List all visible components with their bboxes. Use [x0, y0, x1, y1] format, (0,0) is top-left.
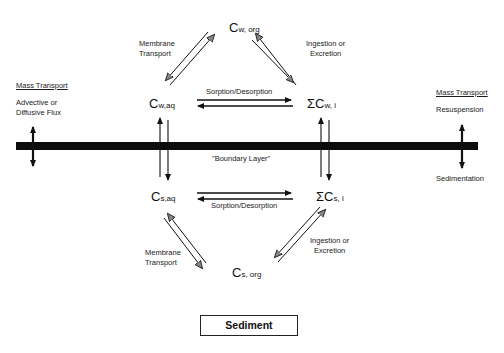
diagram-canvas: Cw, org Cw,aq ΣCw, i Cs,aq ΣCs, i Cs, or… [0, 0, 504, 353]
node-sum-cs-i: ΣCs, i [316, 190, 344, 206]
node-subscript: s,aq [160, 194, 175, 203]
node-symbol: C [232, 265, 241, 280]
label-line: Excretion [310, 246, 349, 256]
boundary-layer-bar [16, 142, 478, 150]
node-prefix: Σ [316, 189, 324, 204]
label-line: Membrane [145, 248, 181, 258]
label-line: Ingestion or [310, 236, 349, 246]
label-line: Membrane [139, 39, 175, 49]
label-line: Ingestion or [306, 39, 345, 49]
resuspension-label: Resuspension [436, 105, 484, 115]
sedimentation-label: Sedimentation [436, 174, 484, 184]
label-line: Diffusive Flux [16, 108, 61, 118]
label-upper-ingestion-excretion: Ingestion or Excretion [306, 39, 345, 59]
left-flux-label: Advective or Diffusive Flux [16, 98, 61, 118]
label-line: Excretion [306, 49, 345, 59]
upper-sorption-arrows [197, 100, 293, 106]
right-mass-transport-heading: Mass Transport [436, 88, 488, 98]
diagram-arrows [0, 0, 504, 353]
sediment-box: Sediment [200, 315, 298, 336]
node-subscript: w, org [238, 25, 259, 34]
upper-right-ingestion-arrows [252, 34, 296, 85]
node-prefix: Σ [307, 96, 315, 111]
node-symbol: C [149, 96, 158, 111]
node-cw-org: Cw, org [229, 21, 260, 37]
node-sum-cw-i: ΣCw, i [307, 97, 336, 113]
label-upper-sorption-desorption: Sorption/Desorption [206, 87, 272, 97]
label-line: Transport [139, 49, 175, 59]
node-cs-org: Cs, org [232, 266, 261, 282]
node-symbol: C [229, 20, 238, 35]
label-lower-membrane-transport: Membrane Transport [145, 248, 181, 268]
lower-sorption-arrows [197, 193, 293, 199]
left-mass-transport-heading: Mass Transport [16, 81, 68, 91]
node-subscript: w, i [324, 101, 336, 110]
label-line: Advective or [16, 98, 61, 108]
node-cs-aq: Cs,aq [151, 190, 176, 206]
node-subscript: w,aq [158, 101, 174, 110]
node-cw-aq: Cw,aq [149, 97, 175, 113]
node-subscript: s, org [241, 270, 261, 279]
label-line: Transport [145, 258, 181, 268]
label-lower-ingestion-excretion: Ingestion or Excretion [310, 236, 349, 256]
boundary-layer-label: "Boundary Layer" [212, 154, 270, 164]
label-upper-membrane-transport: Membrane Transport [139, 39, 175, 59]
node-subscript: s, i [333, 194, 343, 203]
label-lower-sorption-desorption: Sorption/Desorption [211, 201, 277, 211]
node-symbol: C [151, 189, 160, 204]
